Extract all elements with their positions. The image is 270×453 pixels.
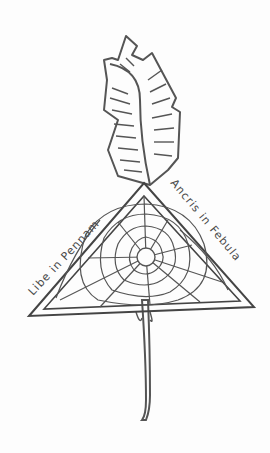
drawing: Libe in Pennam Ancris in Febula xyxy=(0,0,270,453)
feather-icon xyxy=(104,36,180,185)
quill-stem xyxy=(142,300,150,420)
web-center xyxy=(137,248,155,266)
